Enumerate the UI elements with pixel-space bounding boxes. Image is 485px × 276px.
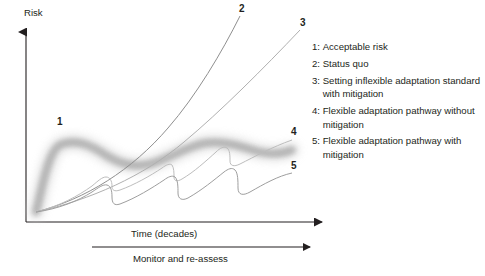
legend-key-3: 3:: [312, 74, 323, 101]
curve-label-1: 1: [57, 116, 63, 127]
legend-key-1: 1:: [312, 40, 323, 54]
legend: 1: Acceptable risk 2: Status quo 3: Sett…: [312, 40, 482, 165]
monitor-and-reassess-caption: Monitor and re-assess: [133, 253, 228, 264]
x-axis-title: Time (decades): [131, 228, 197, 239]
curve-label-4: 4: [291, 126, 297, 137]
legend-label-3: Setting inflexible adaptation standard w…: [323, 74, 482, 101]
legend-item-1: 1: Acceptable risk: [312, 40, 482, 54]
legend-label-5: Flexible adaptation pathway with mitigat…: [323, 134, 482, 161]
legend-item-5: 5: Flexible adaptation pathway with miti…: [312, 134, 482, 161]
legend-item-2: 2: Status quo: [312, 57, 482, 71]
legend-key-4: 4:: [312, 104, 323, 131]
legend-label-2: Status quo: [323, 57, 482, 71]
legend-key-5: 5:: [312, 134, 323, 161]
legend-label-1: Acceptable risk: [323, 40, 482, 54]
curve-label-3: 3: [300, 17, 306, 28]
y-axis-title: Risk: [24, 7, 43, 18]
curve-label-5: 5: [291, 160, 297, 171]
series-5-flexible-with-mitigation: [36, 169, 292, 212]
legend-item-3: 3: Setting inflexible adaptation standar…: [312, 74, 482, 101]
curve-label-2: 2: [239, 3, 245, 14]
legend-label-4: Flexible adaptation pathway without miti…: [323, 104, 482, 131]
legend-key-2: 2:: [312, 57, 323, 71]
series-3-inflexible-standard: [36, 30, 300, 212]
legend-item-4: 4: Flexible adaptation pathway without m…: [312, 104, 482, 131]
